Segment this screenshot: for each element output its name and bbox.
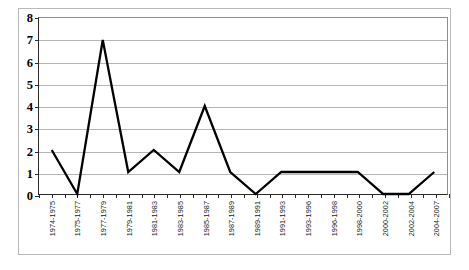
y-axis-tick-label: 3 [27,123,33,136]
x-axis-tick-label: 1991-1993 [278,201,287,236]
x-tick-mark [449,194,450,198]
x-axis-tick-label: 2004-2007 [432,201,441,236]
x-axis-tick-label: 1975-1977 [73,201,82,236]
y-axis-tick-label: 7 [27,34,33,47]
y-axis-tick-label: 6 [27,56,33,69]
y-axis-tick-label: 4 [27,101,33,114]
line-chart-figure: 012345678 1974-19751975-19771977-1979197… [0,0,469,270]
x-tick-mark [116,194,117,198]
x-tick-mark-major [154,194,155,198]
x-axis-tick-label: 1996-1998 [330,201,339,236]
x-tick-mark [90,194,91,198]
x-tick-mark [193,194,194,198]
x-tick-mark-major [436,194,437,198]
x-axis-tick-label: 1977-1979 [99,201,108,236]
x-tick-mark-major [411,194,412,198]
x-tick-mark-major [52,194,53,198]
x-axis-tick-label: 1979-1981 [125,201,134,236]
x-tick-mark-major [103,194,104,198]
x-tick-mark-major [180,194,181,198]
x-tick-mark [347,194,348,198]
y-axis-tick-label: 8 [27,12,33,25]
x-axis-tick-label: 2002-2004 [407,201,416,236]
x-tick-mark [244,194,245,198]
x-tick-mark [321,194,322,198]
x-tick-mark [423,194,424,198]
x-tick-mark-major [308,194,309,198]
x-axis-tick-label: 1983-1985 [176,201,185,236]
x-tick-mark [65,194,66,198]
x-axis-tick-label: 1981-1983 [150,201,159,236]
x-tick-mark-major [359,194,360,198]
x-axis-tick-label: 1987-1989 [227,201,236,236]
x-axis-tick-label: 1985-1987 [202,201,211,236]
x-tick-mark-major [231,194,232,198]
x-tick-mark-major [129,194,130,198]
x-tick-mark [218,194,219,198]
x-tick-mark [167,194,168,198]
x-tick-mark [39,194,40,198]
x-tick-mark-major [334,194,335,198]
x-tick-mark [295,194,296,198]
x-tick-mark-major [282,194,283,198]
x-tick-mark [142,194,143,198]
series-svg [39,18,447,194]
x-tick-mark-major [257,194,258,198]
x-axis-tick-label: 1998-2000 [355,201,364,236]
x-axis-tick-label: 2000-2002 [381,201,390,236]
x-axis-tick-label: 1993-1996 [304,201,313,236]
y-axis-tick-label: 1 [27,168,33,181]
series-line [52,40,435,194]
y-axis-tick-label: 0 [27,190,33,203]
x-tick-mark-major [206,194,207,198]
x-tick-mark [270,194,271,198]
x-tick-mark [372,194,373,198]
x-axis-tick-label: 1974-1975 [48,201,57,236]
plot-area: 012345678 1974-19751975-19771977-1979197… [38,17,448,195]
y-axis-tick-label: 2 [27,145,33,158]
y-axis-tick-label: 5 [27,79,33,92]
x-axis-tick-label: 1989-1991 [253,201,262,236]
